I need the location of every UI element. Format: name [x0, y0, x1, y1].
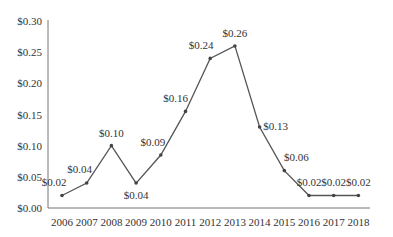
data-point-marker	[307, 194, 311, 198]
x-tick-label: 2008	[100, 216, 123, 228]
y-tick-label: $0.20	[17, 77, 42, 89]
data-point-marker	[184, 110, 188, 114]
x-axis-tick-labels: 2006200720082009201020112012201320142015…	[51, 216, 370, 228]
x-tick-label: 2012	[199, 216, 221, 228]
data-point-marker	[283, 169, 287, 173]
data-point-marker	[60, 194, 64, 198]
x-tick-label: 2010	[150, 216, 173, 228]
data-label: $0.09	[140, 136, 165, 148]
y-tick-label: $0.10	[17, 140, 42, 152]
x-tick-label: 2011	[175, 216, 197, 228]
x-tick-label: 2017	[323, 216, 346, 228]
x-tick-label: 2006	[51, 216, 74, 228]
x-tick-label: 2015	[273, 216, 296, 228]
data-point-marker	[357, 194, 361, 198]
data-label: $0.02	[321, 176, 346, 188]
data-points	[60, 44, 360, 197]
data-label: $0.06	[284, 151, 309, 163]
data-label: $0.02	[42, 176, 67, 188]
data-labels: $0.02$0.04$0.10$0.04$0.09$0.16$0.24$0.26…	[42, 27, 371, 201]
data-point-marker	[258, 125, 262, 129]
data-label: $0.04	[124, 189, 149, 201]
x-tick-label: 2007	[76, 216, 99, 228]
data-point-marker	[134, 181, 138, 185]
series-line	[62, 46, 358, 196]
x-tick-label: 2014	[249, 216, 272, 228]
x-tick-label: 2018	[347, 216, 370, 228]
data-label: $0.13	[263, 120, 288, 132]
data-point-marker	[159, 153, 163, 157]
data-point-marker	[85, 181, 89, 185]
y-tick-label: $0.15	[17, 109, 42, 121]
data-label: $0.04	[67, 163, 92, 175]
data-label: $0.02	[297, 176, 322, 188]
line-chart: $0.00$0.05$0.10$0.15$0.20$0.25$0.30 2006…	[0, 0, 393, 237]
y-tick-label: $0.30	[17, 15, 42, 27]
data-point-marker	[233, 44, 237, 48]
data-point-marker	[110, 144, 114, 148]
data-label: $0.10	[99, 127, 124, 139]
data-label: $0.26	[223, 27, 248, 39]
data-label: $0.02	[346, 176, 371, 188]
y-tick-label: $0.00	[17, 202, 42, 214]
y-axis-tick-labels: $0.00$0.05$0.10$0.15$0.20$0.25$0.30	[17, 15, 42, 214]
y-tick-label: $0.25	[17, 46, 42, 58]
x-tick-label: 2013	[224, 216, 247, 228]
data-label: $0.16	[163, 92, 188, 104]
x-tick-label: 2016	[298, 216, 321, 228]
y-tick-label: $0.05	[17, 171, 42, 183]
x-tick-label: 2009	[125, 216, 148, 228]
data-point-marker	[332, 194, 336, 198]
data-point-marker	[208, 57, 212, 61]
data-label: $0.24	[189, 39, 214, 51]
